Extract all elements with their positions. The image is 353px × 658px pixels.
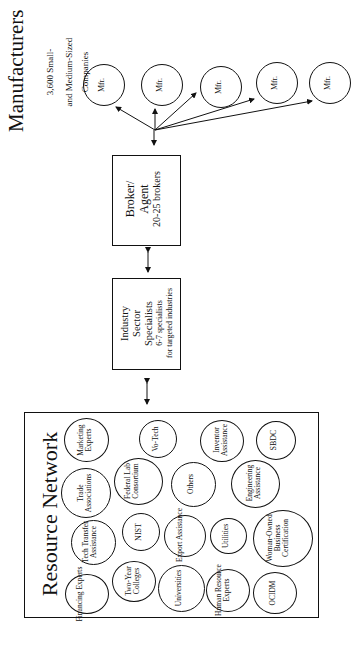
resource-trade-associations: Trade Associations [61, 468, 111, 518]
resource-others: Others [171, 462, 216, 507]
resource-ocidm: OCIDM [253, 572, 297, 614]
resource-financing-experts: Financing Experts [65, 574, 109, 614]
broker-line2: Agent [138, 154, 152, 244]
resource-nist: NIST [122, 513, 160, 551]
mfr-label: Mfr. [156, 66, 168, 104]
mfr-node-4: Mfr. [256, 62, 298, 104]
resource-two-year-colleges: Two-Year Colleges [112, 561, 156, 602]
resource-utilities: Utilities [210, 518, 247, 554]
industry-line5: for targeted industries [166, 278, 178, 368]
resource-network-title: Resource Network [38, 424, 64, 604]
broker-line3: 20-25 brokers [152, 154, 166, 244]
mfr-node-1: Mfr. [83, 64, 125, 106]
resource-export-assistance: Export Assistance [164, 515, 206, 557]
manufacturers-title: Manufacturers [5, 32, 29, 132]
resource-woman-owned-business-certification: Woman-Owned Business Certification [253, 510, 313, 567]
resource-sbdc: SBDC [256, 421, 296, 460]
mfr-node-5: Mfr. [309, 62, 351, 104]
broker-line1: Broker/ [124, 154, 138, 244]
manufacturers-subtitle-line1: 3,600 Small- [46, 37, 58, 107]
industry-sector-specialists-box: Industry Sector Specialists 6-7 speciali… [112, 278, 181, 370]
resource-tech-transfer-assistance: Tech Transfer Assistance [71, 520, 116, 565]
resource-inventor-assistance: Inventor Assistance [200, 420, 244, 462]
mfr-label: Mfr. [98, 66, 110, 104]
broker-agent-box: Broker/ Agent 20-25 brokers [112, 155, 181, 246]
industry-line3: Specialists [143, 279, 156, 369]
mfr-node-2: Mfr. [141, 64, 183, 106]
resource-vo-tech: Vo-Tech [139, 420, 177, 458]
mfr-label: Mfr. [215, 68, 227, 106]
resource-universities: Universities [158, 565, 205, 612]
mfr-label: Mfr. [271, 64, 283, 102]
mfr-label: Mfr. [324, 64, 336, 102]
manufacturers-subtitle-line2: and Medium-Sized [65, 32, 77, 112]
mfr-node-3: Mfr. [200, 66, 242, 108]
resource-marketing-experts: Marketing Experts [64, 418, 109, 462]
resource-human-resource-experts: Human Resource Experts [206, 569, 250, 612]
